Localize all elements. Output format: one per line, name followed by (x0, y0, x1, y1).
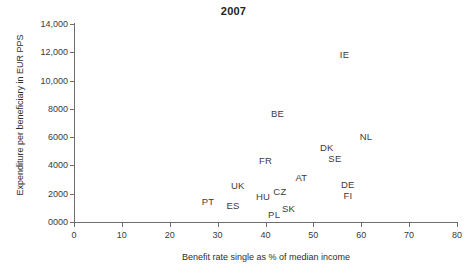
y-tick-label: 10,000 (40, 76, 68, 86)
x-tick-label: 70 (404, 230, 414, 240)
data-point-label-pl: PL (268, 208, 280, 219)
data-point-label-fr: FR (259, 154, 272, 165)
y-tick-label: 0000 (48, 217, 68, 227)
x-tick-label: 0 (71, 230, 76, 240)
y-tick-label: 12,000 (40, 47, 68, 57)
data-point-label-at: AT (295, 171, 307, 182)
x-tick-label: 40 (260, 230, 270, 240)
plot-area: IEBENLDKSEFRATDEUKCZFIHUPTESSKPL (74, 24, 457, 222)
chart-title: 2007 (0, 5, 467, 17)
x-tick-mark (313, 223, 314, 227)
x-tick-mark (361, 223, 362, 227)
data-point-label-ie: IE (340, 48, 349, 59)
y-tick-label: 6000 (48, 132, 68, 142)
x-tick-label: 10 (117, 230, 127, 240)
x-tick-mark (266, 223, 267, 227)
data-point-label-es: ES (226, 200, 239, 211)
data-point-label-cz: CZ (273, 185, 286, 196)
x-tick-mark (218, 223, 219, 227)
data-point-label-pt: PT (202, 195, 215, 206)
data-point-label-sk: SK (282, 202, 295, 213)
y-axis-title: Expenditure per beneficiary in EUR PPS (15, 15, 25, 215)
x-tick-mark (457, 223, 458, 227)
data-point-label-fi: FI (343, 190, 352, 201)
x-tick-label: 50 (308, 230, 318, 240)
data-point-label-hu: HU (256, 190, 270, 201)
x-tick-label: 30 (213, 230, 223, 240)
y-tick-label: 14,000 (40, 19, 68, 29)
x-tick-mark (122, 223, 123, 227)
x-tick-mark (170, 223, 171, 227)
x-axis-title: Benefit rate single as % of median incom… (74, 252, 458, 262)
x-tick-mark (74, 223, 75, 227)
data-point-label-de: DE (341, 178, 355, 189)
data-point-label-dk: DK (320, 142, 334, 153)
data-point-label-se: SE (328, 153, 341, 164)
y-tick-label: 8000 (48, 104, 68, 114)
data-point-label-nl: NL (360, 130, 373, 141)
x-tick-mark (409, 223, 410, 227)
y-tick-label: 4000 (48, 160, 68, 170)
y-tick-label: 2000 (48, 189, 68, 199)
scatter-chart: 2007 0000200040006000800010,00012,00014,… (0, 0, 467, 275)
x-tick-label: 60 (356, 230, 366, 240)
x-tick-label: 20 (165, 230, 175, 240)
data-point-label-be: BE (271, 108, 284, 119)
x-tick-label: 80 (452, 230, 462, 240)
y-axis-tick-labels: 0000200040006000800010,00012,00014,000 (18, 0, 68, 275)
data-point-label-uk: UK (231, 180, 245, 191)
